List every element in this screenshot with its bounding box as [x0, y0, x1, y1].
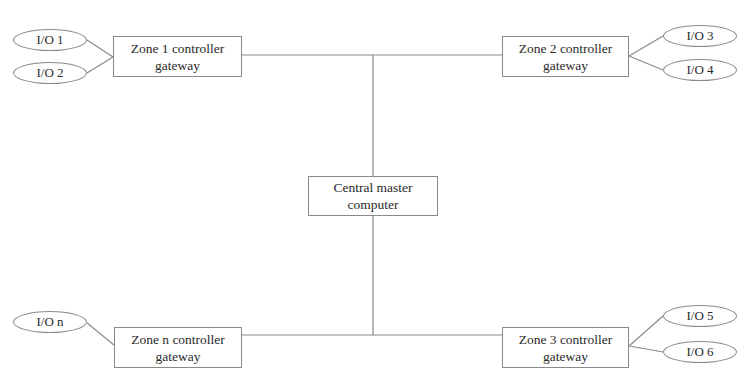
network-diagram: Zone 1 controller gateway I/O 1 I/O 2 Zo… — [0, 0, 749, 391]
io4-label: I/O 4 — [686, 62, 713, 78]
io5-node: I/O 5 — [663, 305, 737, 327]
io5-link — [629, 316, 663, 346]
io1-link — [87, 40, 113, 57]
ion-link — [87, 323, 114, 345]
zonen-controller-gateway: Zone n controller gateway — [114, 327, 242, 368]
zone3-label-line2: gateway — [543, 348, 588, 365]
zone1-controller-gateway: Zone 1 controller gateway — [113, 36, 242, 77]
zone2-label-line2: gateway — [543, 57, 588, 74]
central-label-line2: computer — [348, 196, 399, 213]
zone3-label-line1: Zone 3 controller — [519, 331, 613, 348]
io1-node: I/O 1 — [13, 29, 87, 51]
ion-node: I/O n — [13, 311, 87, 333]
zonen-label-line1: Zone n controller — [131, 331, 225, 348]
io2-link — [87, 57, 113, 73]
zone2-label-line1: Zone 2 controller — [519, 40, 613, 57]
io3-link — [629, 36, 663, 56]
ion-label: I/O n — [36, 314, 63, 330]
io2-label: I/O 2 — [36, 65, 63, 81]
central-master-computer: Central master computer — [308, 176, 438, 216]
io6-node: I/O 6 — [663, 341, 737, 363]
zone1-label-line2: gateway — [155, 57, 200, 74]
zonen-label-line2: gateway — [156, 348, 201, 365]
zone3-controller-gateway: Zone 3 controller gateway — [502, 327, 629, 368]
io6-link — [629, 346, 663, 352]
io2-node: I/O 2 — [13, 62, 87, 84]
io4-node: I/O 4 — [663, 59, 737, 81]
central-label-line1: Central master — [333, 179, 412, 196]
io1-label: I/O 1 — [36, 32, 63, 48]
io3-label: I/O 3 — [686, 28, 713, 44]
zone2-controller-gateway: Zone 2 controller gateway — [502, 36, 629, 77]
io4-link — [629, 56, 663, 70]
io6-label: I/O 6 — [686, 344, 713, 360]
io5-label: I/O 5 — [686, 308, 713, 324]
zone1-label-line1: Zone 1 controller — [131, 40, 225, 57]
io3-node: I/O 3 — [663, 25, 737, 47]
